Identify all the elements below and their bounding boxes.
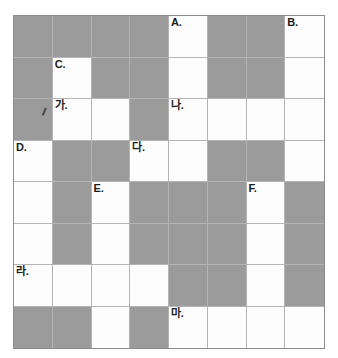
grid-cell-blocked bbox=[169, 182, 208, 224]
grid-cell-empty[interactable] bbox=[169, 58, 208, 100]
grid-cell-empty[interactable]: 가. bbox=[53, 99, 92, 141]
grid-cell-empty[interactable]: 마. bbox=[169, 307, 208, 349]
grid-cell-empty[interactable] bbox=[130, 265, 169, 307]
clipped-header-text: 가 가 가 가 가 가 가 가 가 가 가 가 가 가 가 가 가 가 가 가 … bbox=[0, 0, 338, 13]
grid-cell-blocked bbox=[285, 265, 324, 307]
grid-cell-blocked bbox=[208, 58, 247, 100]
pencil-mark-annotation bbox=[42, 108, 53, 119]
grid-cell-blocked bbox=[53, 224, 92, 266]
grid-cell-empty[interactable] bbox=[92, 307, 131, 349]
clue-number-label: C. bbox=[55, 58, 66, 71]
grid-cell-empty[interactable]: 나. bbox=[169, 99, 208, 141]
grid-cell-blocked bbox=[92, 58, 131, 100]
grid-cell-blocked bbox=[208, 265, 247, 307]
crossword-grid[interactable]: A.B.C.가.나.D.다.E.F.라.마. bbox=[13, 15, 325, 349]
grid-cell-blocked bbox=[208, 141, 247, 183]
grid-cell-blocked bbox=[130, 16, 169, 58]
grid-cell-empty[interactable]: A. bbox=[169, 16, 208, 58]
grid-cell-blocked bbox=[130, 307, 169, 349]
grid-cell-blocked bbox=[130, 224, 169, 266]
grid-cell-blocked bbox=[53, 141, 92, 183]
grid-cell-blocked bbox=[208, 224, 247, 266]
grid-cell-blocked bbox=[285, 182, 324, 224]
grid-cell-empty[interactable] bbox=[92, 224, 131, 266]
grid-cell-empty[interactable] bbox=[92, 265, 131, 307]
grid-cell-empty[interactable]: D. bbox=[14, 141, 53, 183]
grid-cell-empty[interactable] bbox=[247, 265, 286, 307]
grid-cell-blocked bbox=[53, 16, 92, 58]
grid-cell-empty[interactable] bbox=[208, 99, 247, 141]
grid-cell-blocked bbox=[14, 99, 53, 141]
clue-number-label: 라. bbox=[16, 265, 29, 278]
grid-cell-empty[interactable]: C. bbox=[53, 58, 92, 100]
grid-cell-empty[interactable]: B. bbox=[285, 16, 324, 58]
grid-cell-blocked bbox=[247, 58, 286, 100]
clue-number-label: E. bbox=[94, 182, 104, 195]
grid-cell-empty[interactable]: F. bbox=[247, 182, 286, 224]
grid-cell-empty[interactable] bbox=[14, 224, 53, 266]
clue-number-label: 나. bbox=[171, 99, 184, 112]
grid-cell-blocked bbox=[14, 16, 53, 58]
grid-cell-blocked bbox=[130, 58, 169, 100]
grid-cell-blocked bbox=[92, 16, 131, 58]
grid-cell-empty[interactable] bbox=[92, 99, 131, 141]
grid-cell-blocked bbox=[247, 16, 286, 58]
grid-cell-blocked bbox=[92, 141, 131, 183]
grid-cell-empty[interactable] bbox=[208, 307, 247, 349]
grid-cell-empty[interactable] bbox=[53, 265, 92, 307]
clue-number-label: 마. bbox=[171, 307, 184, 320]
grid-cell-empty[interactable] bbox=[14, 182, 53, 224]
grid-cell-blocked bbox=[208, 16, 247, 58]
grid-cell-empty[interactable] bbox=[285, 307, 324, 349]
clue-number-label: F. bbox=[249, 182, 257, 195]
grid-cell-blocked bbox=[208, 182, 247, 224]
grid-cell-blocked bbox=[130, 182, 169, 224]
clue-number-label: A. bbox=[171, 16, 182, 29]
grid-cell-blocked bbox=[169, 265, 208, 307]
grid-cell-blocked bbox=[130, 99, 169, 141]
grid-cell-blocked bbox=[53, 307, 92, 349]
clue-number-label: D. bbox=[16, 141, 27, 154]
grid-cell-empty[interactable] bbox=[285, 141, 324, 183]
grid-cell-empty[interactable]: 라. bbox=[14, 265, 53, 307]
grid-cell-empty[interactable] bbox=[247, 307, 286, 349]
grid-cell-blocked bbox=[285, 224, 324, 266]
grid-cell-blocked bbox=[169, 224, 208, 266]
clue-number-label: 가. bbox=[55, 99, 68, 112]
clipped-header-line: 가 가 가 가 가 가 가 가 가 가 가 가 가 가 가 가 가 가 가 가 … bbox=[4, 0, 283, 2]
grid-cell-empty[interactable] bbox=[247, 224, 286, 266]
grid-cell-blocked bbox=[14, 307, 53, 349]
grid-cell-blocked bbox=[14, 58, 53, 100]
grid-cell-empty[interactable] bbox=[285, 99, 324, 141]
grid-cell-blocked bbox=[247, 141, 286, 183]
grid-cell-empty[interactable]: E. bbox=[92, 182, 131, 224]
grid-cell-empty[interactable] bbox=[285, 58, 324, 100]
clue-number-label: B. bbox=[287, 16, 298, 29]
grid-cell-empty[interactable]: 다. bbox=[130, 141, 169, 183]
clue-number-label: 다. bbox=[132, 141, 145, 154]
grid-cell-empty[interactable] bbox=[247, 99, 286, 141]
grid-cell-blocked bbox=[53, 182, 92, 224]
grid-cell-empty[interactable] bbox=[169, 141, 208, 183]
